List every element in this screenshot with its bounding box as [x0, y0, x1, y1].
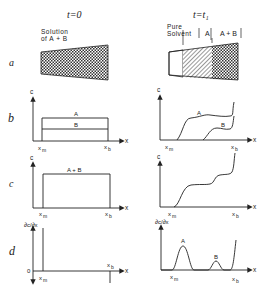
row-label-a: a	[9, 57, 14, 68]
svg-text:x: x	[104, 144, 107, 150]
zone-a	[183, 46, 212, 79]
solution-label-line1: Solution	[41, 28, 69, 35]
pure-solvent-line2: Solvent	[167, 30, 191, 37]
panel-d-right-chart: ∂c/∂x x A B x m x b	[155, 219, 257, 284]
svg-text:x: x	[170, 274, 173, 280]
svg-text:x: x	[253, 266, 257, 273]
svg-text:B: B	[214, 254, 218, 260]
zone-ab-label: A + B	[220, 30, 237, 37]
svg-text:x: x	[125, 204, 129, 211]
panel-c-left-chart: c x A + B x m x b	[30, 154, 129, 219]
svg-text:∂c/∂x: ∂c/∂x	[155, 219, 169, 225]
svg-text:B: B	[221, 122, 225, 128]
svg-text:b: b	[111, 264, 114, 270]
solution-label-line2: of A + B	[41, 35, 68, 42]
panel-b-right-chart: c x A B x m x b	[157, 86, 257, 152]
panel-c-right-chart: c x x m x b	[157, 153, 257, 219]
svg-text:A + B: A + B	[67, 167, 82, 173]
svg-text:c: c	[157, 153, 161, 160]
svg-text:∂c/∂x: ∂c/∂x	[24, 222, 38, 228]
panel-a-right: Pure Solvent A A + B	[167, 23, 241, 80]
svg-text:m: m	[174, 276, 178, 282]
svg-text:B: B	[74, 122, 78, 128]
sedimentation-boundary-diagram: t=0 t=t₁ a b c d Solution of A + B Pure …	[0, 0, 267, 294]
column-title-t0: t=0	[67, 9, 82, 20]
svg-text:m: m	[43, 277, 47, 283]
svg-text:x: x	[253, 136, 257, 143]
svg-text:x: x	[125, 267, 129, 274]
derivative-curve	[161, 240, 236, 270]
svg-text:x: x	[105, 211, 108, 217]
curve-ab	[43, 174, 110, 208]
svg-text:b: b	[109, 213, 112, 219]
svg-text:x: x	[232, 211, 235, 217]
svg-text:m: m	[43, 213, 47, 219]
svg-text:m: m	[172, 213, 176, 219]
curve-a	[177, 102, 234, 140]
y-axis-label: c	[30, 88, 34, 95]
svg-text:x: x	[39, 275, 42, 281]
svg-text:x: x	[231, 144, 234, 150]
svg-text:c: c	[30, 154, 34, 161]
svg-text:0: 0	[27, 268, 31, 274]
cell-solution-ab	[41, 45, 108, 80]
svg-text:c: c	[157, 86, 161, 93]
row-label-c: c	[9, 178, 14, 189]
row-label-d: d	[9, 244, 16, 258]
svg-text:x: x	[38, 145, 41, 151]
svg-text:m: m	[169, 146, 173, 152]
svg-text:m: m	[42, 147, 46, 153]
svg-text:x: x	[253, 203, 257, 210]
column-title-t1: t=t₁	[193, 9, 209, 20]
svg-text:A: A	[181, 238, 185, 244]
svg-text:A: A	[197, 110, 201, 116]
svg-text:b: b	[236, 278, 239, 284]
panel-d-left-chart: ∂c/∂x x 0 x m x b x	[24, 210, 129, 283]
svg-text:A: A	[74, 111, 78, 117]
pure-solvent-line1: Pure	[167, 23, 182, 30]
panel-b-left-chart: c x A B x m x b	[30, 88, 129, 153]
curve-ab	[174, 153, 235, 207]
svg-text:x: x	[232, 276, 235, 282]
zone-a-label: A	[205, 30, 210, 37]
svg-text:x: x	[107, 262, 110, 268]
x-axis-label: x	[125, 137, 129, 144]
zone-pure-solvent	[169, 50, 183, 77]
svg-text:x: x	[168, 211, 171, 217]
svg-text:b: b	[108, 146, 111, 152]
svg-text:b: b	[236, 213, 239, 219]
curve-b	[203, 116, 234, 140]
panel-a-left: Solution of A + B	[41, 28, 108, 80]
svg-text:b: b	[235, 146, 238, 152]
row-label-b: b	[8, 111, 14, 125]
svg-text:x: x	[165, 144, 168, 150]
zone-ab	[212, 43, 238, 80]
